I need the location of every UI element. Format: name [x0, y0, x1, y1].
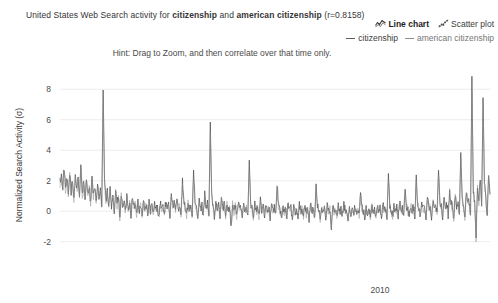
x-tick-label: 2010	[371, 285, 390, 295]
y-axis-label: Normalized Search Activity (σ)	[14, 80, 24, 250]
tab-scatter-plot-label: Scatter plot	[451, 19, 494, 29]
tab-line-chart-label: Line chart	[388, 19, 429, 29]
chart-header: United States Web Search activity for ci…	[0, 0, 498, 64]
legend-label: american citizenship	[417, 33, 494, 43]
tab-line-chart[interactable]: Line chart	[375, 19, 429, 30]
title-term-a: citizenship	[172, 10, 217, 20]
y-tick-label: -2	[43, 237, 51, 247]
chart-view-toggle: Line chart Scatter plot	[375, 18, 494, 30]
y-tick-label: 0	[46, 206, 51, 216]
series-line-american-citizenship	[60, 92, 490, 242]
chart-plot-area[interactable]: Normalized Search Activity (σ) 86420-2 2…	[0, 64, 498, 303]
y-tick-label: 6	[46, 115, 51, 125]
series-paths	[60, 76, 490, 242]
series-legend: citizenship american citizenship	[346, 33, 494, 43]
line-chart-svg[interactable]: 86420-2 2010	[0, 64, 498, 303]
title-correlation: (r=0.8158)	[322, 10, 365, 20]
scatter-plot-icon	[438, 19, 449, 30]
zoom-hint: Hint: Drag to Zoom, and then correlate o…	[0, 48, 498, 58]
legend-item-american-citizenship[interactable]: american citizenship	[405, 33, 494, 43]
y-tick-label: 4	[46, 145, 51, 155]
title-term-b: american citizenship	[236, 10, 321, 20]
y-tick-label: 2	[46, 176, 51, 186]
x-tick-labels: 2010	[371, 285, 390, 295]
y-tick-label: 8	[46, 84, 51, 94]
tab-scatter-plot[interactable]: Scatter plot	[438, 19, 494, 30]
gridlines	[60, 89, 490, 241]
legend-swatch	[346, 38, 355, 39]
legend-swatch	[405, 38, 414, 39]
legend-label: citizenship	[358, 33, 398, 43]
y-tick-labels: 86420-2	[43, 84, 51, 246]
legend-item-citizenship[interactable]: citizenship	[346, 33, 398, 43]
title-join: and	[217, 10, 236, 20]
page-title: United States Web Search activity for ci…	[26, 10, 365, 21]
title-prefix: United States Web Search activity for	[26, 10, 172, 20]
line-chart-icon	[375, 19, 386, 30]
